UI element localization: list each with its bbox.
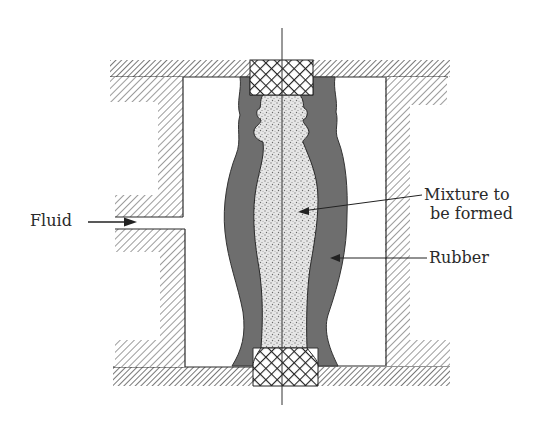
bottom-plug xyxy=(253,348,318,386)
leader-rubber xyxy=(330,254,427,262)
label-mixture-line1: Mixture to xyxy=(424,186,510,203)
label-mixture-line2: be formed xyxy=(430,205,513,222)
fluid-arrow xyxy=(88,218,137,227)
diagram-canvas: Fluid Mixture to be formed Rubber xyxy=(0,0,554,429)
label-rubber: Rubber xyxy=(429,249,489,266)
label-fluid: Fluid xyxy=(30,212,72,229)
